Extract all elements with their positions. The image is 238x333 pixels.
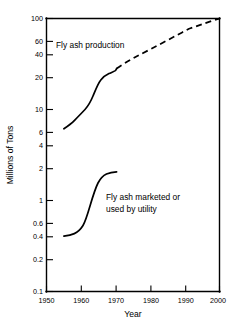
y-tick-label-10: 10: [35, 105, 43, 114]
y-tick-label-6: 6: [39, 128, 43, 137]
x-axis-title: Year: [124, 309, 142, 319]
figure: 100 60 40 20 10 6 4 2 1 0.6 0.4 0.2 0.1 …: [0, 0, 238, 333]
y-tick-label-0.2: 0.2: [33, 255, 43, 264]
chart-canvas: 100 60 40 20 10 6 4 2 1 0.6 0.4 0.2 0.1 …: [0, 0, 238, 333]
y-tick-label-60: 60: [35, 37, 43, 46]
y-tick-label-40: 40: [35, 50, 43, 59]
annotation-fly-ash-marketed-line2: used by utility: [106, 204, 158, 214]
y-tick-label-20: 20: [35, 73, 43, 82]
y-tick-label-4: 4: [39, 141, 43, 150]
y-tick-label-1: 1: [39, 196, 43, 205]
y-tick-label-0.6: 0.6: [33, 219, 43, 228]
y-tick-label-100: 100: [31, 14, 43, 23]
x-tick-label-2000: 2000: [210, 296, 226, 305]
y-tick-label-0.4: 0.4: [33, 232, 43, 241]
x-tick-label-1990: 1990: [178, 296, 194, 305]
annotation-fly-ash-production: Fly ash production: [56, 40, 125, 50]
x-tick-label-1960: 1960: [73, 296, 89, 305]
y-axis-title: Millions of Tons: [5, 126, 15, 185]
annotation-fly-ash-marketed-line1: Fly ash marketed or: [106, 192, 180, 202]
x-tick-label-1950: 1950: [39, 296, 55, 305]
x-tick-label-1980: 1980: [143, 296, 159, 305]
y-tick-label-2: 2: [39, 164, 43, 173]
x-tick-label-1970: 1970: [108, 296, 124, 305]
